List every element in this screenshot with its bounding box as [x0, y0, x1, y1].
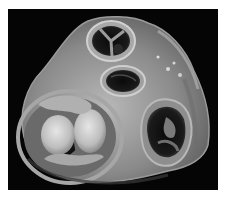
upper-oval-orifice	[101, 66, 145, 96]
right-valve-orifice	[141, 99, 191, 165]
thickened-left-valve	[18, 91, 122, 183]
specimen-photo	[8, 9, 218, 190]
photo-frame	[8, 9, 218, 190]
aortic-valve	[87, 21, 135, 61]
